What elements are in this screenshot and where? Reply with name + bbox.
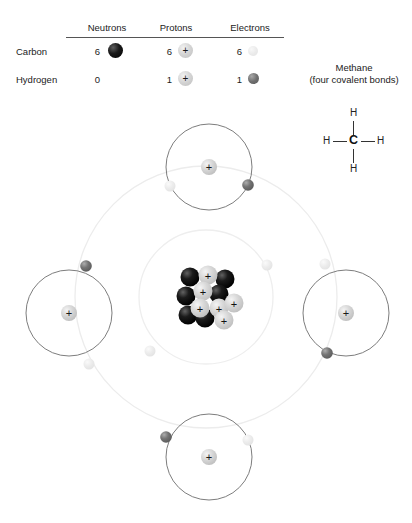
carbon-nucleus: + + + + + + [177, 266, 244, 330]
hydrogen-proton-right: + [338, 305, 354, 321]
nucleus-proton: + [215, 311, 234, 330]
nucleus-proton: + [225, 294, 244, 313]
hydrogen-electron-bottom [160, 431, 172, 443]
carbon-inner-electron-1 [262, 260, 273, 271]
svg-text:+: + [231, 298, 237, 310]
carbon-outer-electron-left [84, 359, 95, 370]
svg-text:+: + [200, 286, 206, 298]
nucleus-proton: + [191, 299, 210, 318]
hydrogen-electron-top [242, 179, 254, 191]
nucleus-proton: + [194, 282, 213, 301]
svg-text:+: + [205, 270, 211, 282]
hydrogen-proton-top-plus: + [206, 161, 212, 173]
svg-text:+: + [221, 315, 227, 327]
carbon-outer-electron-top [165, 181, 176, 192]
methane-atomic-diagram: + + + + + + + + [0, 0, 412, 523]
carbon-outer-electron-bottom [243, 435, 254, 446]
hydrogen-proton-left-plus: + [66, 307, 72, 319]
hydrogen-proton-left: + [61, 305, 77, 321]
hydrogen-proton-bottom: + [201, 449, 217, 465]
hydrogen-electron-left [80, 260, 92, 272]
nucleus-neutron [181, 268, 200, 287]
hydrogen-proton-top: + [201, 159, 217, 175]
hydrogen-proton-bottom-plus: + [206, 451, 212, 463]
carbon-outer-electron-right [320, 259, 331, 270]
carbon-inner-electron-2 [145, 346, 156, 357]
hydrogen-proton-right-plus: + [343, 307, 349, 319]
svg-text:+: + [197, 303, 203, 315]
hydrogen-electron-right [321, 347, 333, 359]
